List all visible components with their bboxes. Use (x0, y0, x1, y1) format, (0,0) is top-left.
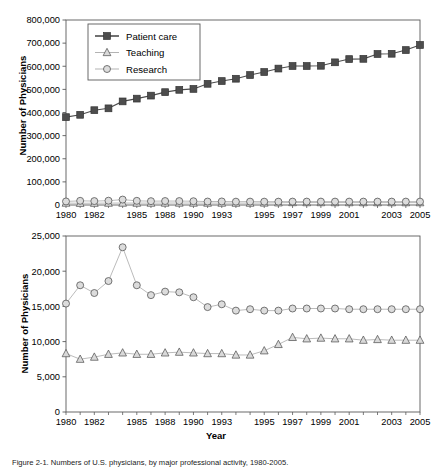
data-point (402, 47, 409, 54)
data-point (289, 198, 296, 205)
data-point (275, 340, 283, 347)
data-point (204, 198, 211, 205)
data-point (176, 198, 183, 205)
data-point (303, 305, 310, 312)
data-point (175, 348, 183, 355)
x-tick-label: 1985 (126, 210, 147, 220)
data-point (105, 105, 112, 112)
data-point (162, 89, 169, 96)
y-axis-label-bottom: Number of Physicians (19, 254, 30, 394)
data-point (133, 282, 140, 289)
data-point (247, 72, 254, 79)
x-tick-label: 1990 (183, 210, 204, 220)
data-point (345, 335, 353, 342)
data-point (218, 349, 226, 356)
data-point (275, 65, 282, 72)
data-point (233, 75, 240, 82)
x-tick-label: 1980 (56, 210, 77, 220)
data-point (147, 292, 154, 299)
data-point (374, 335, 382, 342)
data-point (105, 278, 112, 285)
data-point (77, 282, 84, 289)
plot-frame (66, 236, 420, 412)
data-point (374, 306, 381, 313)
data-point (374, 198, 381, 205)
x-tick-label: 1985 (126, 417, 147, 427)
y-axis-ticks: 0100,000200,000300,000400,000500,000600,… (26, 15, 66, 210)
data-point (388, 306, 395, 313)
legend-label: Research (126, 64, 167, 75)
data-point (63, 114, 70, 121)
data-point (332, 198, 339, 205)
y-axis-ticks: 05,00010,00015,00020,00025,000 (32, 231, 66, 417)
chart-panel-bottom: Number of Physicians 05,00010,00015,0002… (0, 222, 432, 427)
figure-caption: Figure 2-1. Numbers of U.S. physicians, … (12, 458, 424, 467)
x-tick-label: 2001 (339, 417, 360, 427)
x-tick-label: 2003 (381, 210, 402, 220)
y-tick-label: 25,000 (32, 231, 60, 241)
x-axis-ticks: 1980198219851988199019931995199719992001… (56, 412, 431, 427)
x-tick-label: 1988 (155, 417, 176, 427)
data-point (417, 306, 424, 313)
data-point (317, 62, 324, 69)
data-point (91, 290, 98, 297)
x-tick-label: 1988 (155, 210, 176, 220)
y-tick-label: 600,000 (26, 62, 60, 72)
chart-panel-top: Number of Physicians 0100,000200,000300,… (0, 0, 432, 222)
legend: Patient careTeachingResearch (88, 24, 200, 80)
y-tick-label: 300,000 (26, 131, 60, 141)
x-tick-label: 1982 (84, 210, 105, 220)
data-point (317, 334, 325, 341)
x-tick-label: 1995 (254, 417, 275, 427)
data-point (232, 198, 239, 205)
data-point (119, 349, 127, 356)
legend-marker (104, 33, 111, 40)
data-point (247, 198, 254, 205)
data-point (119, 196, 126, 203)
data-point (346, 56, 353, 63)
data-point (402, 198, 409, 205)
x-tick-label: 1997 (282, 417, 303, 427)
data-point (402, 336, 410, 343)
data-point (261, 307, 268, 314)
data-point (261, 69, 268, 76)
data-point (346, 306, 353, 313)
y-tick-label: 700,000 (26, 38, 60, 48)
y-tick-label: 100,000 (26, 177, 60, 187)
y-tick-label: 200,000 (26, 154, 60, 164)
data-point (275, 198, 282, 205)
y-tick-label: 800,000 (26, 15, 60, 25)
y-tick-label: 15,000 (32, 302, 60, 312)
data-point (261, 198, 268, 205)
data-point (402, 306, 409, 313)
x-tick-label: 1980 (56, 417, 77, 427)
y-tick-label: 20,000 (32, 267, 60, 277)
x-tick-label: 1999 (311, 210, 332, 220)
x-tick-label: 2005 (410, 210, 431, 220)
figure-container: Number of Physicians 0100,000200,000300,… (0, 0, 432, 469)
data-point (303, 198, 310, 205)
legend-label: Patient care (126, 31, 177, 42)
data-point (162, 288, 169, 295)
x-tick-label: 2005 (410, 417, 431, 427)
x-tick-label: 1993 (211, 210, 232, 220)
series-teaching (62, 333, 424, 362)
series-research (63, 244, 424, 314)
data-point (346, 198, 353, 205)
data-point (289, 305, 296, 312)
data-point (105, 197, 112, 204)
data-point (332, 59, 339, 66)
data-point (204, 304, 211, 311)
y-tick-label: 10,000 (32, 337, 60, 347)
data-point (360, 306, 367, 313)
data-point (218, 301, 225, 308)
x-tick-label: 1990 (183, 417, 204, 427)
x-axis-label: Year (0, 430, 432, 441)
y-tick-label: 5,000 (37, 372, 60, 382)
legend-label: Teaching (126, 47, 164, 58)
x-tick-label: 1982 (84, 417, 105, 427)
x-tick-label: 2003 (381, 417, 402, 427)
data-point (417, 42, 424, 49)
legend-marker (104, 66, 111, 73)
y-tick-label: 0 (55, 200, 60, 210)
